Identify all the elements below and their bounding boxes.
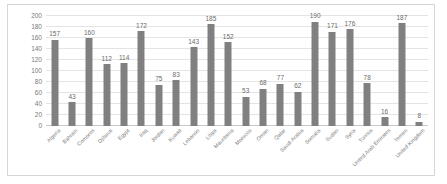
y-axis-tick-label: 20 [35, 112, 42, 119]
bar-slot: 43 [63, 16, 80, 126]
y-axis-tick-label: 120 [31, 57, 42, 64]
plot-area: 1574316011211417275831431851525368776219… [46, 16, 428, 126]
chart-container: 020406080100120140160180200 157431601121… [7, 4, 435, 176]
y-axis-tick-label: 200 [31, 13, 42, 20]
x-axis-category-label: Comoros [77, 128, 96, 147]
y-axis-tick-label: 80 [35, 79, 42, 86]
bar-slot: 176 [341, 16, 358, 126]
bar[interactable] [294, 92, 301, 126]
bar-value-label: 62 [294, 83, 301, 90]
x-axis-category-label: Qatar [274, 128, 287, 141]
x-axis-category-label: Oman [256, 128, 270, 142]
bar[interactable] [207, 24, 214, 126]
bar[interactable] [155, 85, 162, 126]
bar-slot: 16 [376, 16, 393, 126]
bar-slot: 157 [46, 16, 63, 126]
y-axis-tick-label: 0 [38, 123, 42, 130]
x-axis-category-label: Lebanon [182, 128, 201, 147]
x-axis-category-label: Djibouti [97, 128, 114, 145]
bar-value-label: 8 [417, 113, 421, 120]
bar-slot: 187 [393, 16, 410, 126]
bar-value-label: 83 [173, 72, 180, 79]
bar[interactable] [138, 31, 145, 126]
bar-slot: 143 [185, 16, 202, 126]
bar[interactable] [364, 83, 371, 126]
bar-slot: 78 [359, 16, 376, 126]
bar-value-label: 160 [84, 30, 95, 37]
bar-series: 1574316011211417275831431851525368776219… [46, 16, 428, 126]
bar[interactable] [346, 29, 353, 126]
x-axis-category-label: Morocco [234, 128, 252, 146]
x-axis-category-label: Jordan [150, 128, 165, 143]
bar-value-label: 78 [364, 75, 371, 82]
bar-slot: 8 [411, 16, 428, 126]
x-axis-category-label: Libya [205, 128, 218, 141]
bar-value-label: 75 [155, 76, 162, 83]
x-axis-category-label: Egypt [117, 128, 131, 142]
bar-value-label: 143 [188, 39, 199, 46]
bar-slot: 83 [168, 16, 185, 126]
bar[interactable] [242, 97, 249, 126]
bar-value-label: 176 [344, 21, 355, 28]
y-axis-tick-label: 160 [31, 35, 42, 42]
x-axis-category-label: Sudan [324, 128, 339, 143]
bar-value-label: 187 [397, 15, 408, 22]
bar-slot: 112 [98, 16, 115, 126]
bar[interactable] [277, 84, 284, 126]
bar[interactable] [190, 47, 197, 126]
y-axis-tick-label: 40 [35, 101, 42, 108]
bar[interactable] [121, 63, 128, 126]
x-axis-category-label: Iraq [138, 128, 148, 138]
bar-value-label: 171 [327, 23, 338, 30]
bar[interactable] [51, 40, 58, 126]
bar-value-label: 77 [277, 75, 284, 82]
bar-slot: 185 [202, 16, 219, 126]
bar-value-label: 185 [206, 16, 217, 23]
bar-slot: 68 [254, 16, 271, 126]
bar[interactable] [173, 80, 180, 126]
x-axis-category-label: Somalia [304, 128, 322, 146]
y-axis-tick-label: 180 [31, 24, 42, 31]
bar-slot: 114 [115, 16, 132, 126]
bar[interactable] [416, 122, 423, 126]
bar-slot: 62 [289, 16, 306, 126]
bar-value-label: 43 [68, 94, 75, 101]
bar-slot: 160 [81, 16, 98, 126]
bar-slot: 152 [220, 16, 237, 126]
bar[interactable] [69, 102, 76, 126]
x-axis-labels: AlgeriaBahrainComorosDjiboutiEgyptIraqJo… [46, 128, 428, 176]
bar[interactable] [225, 42, 232, 126]
bar-slot: 75 [150, 16, 167, 126]
bar[interactable] [260, 89, 267, 126]
bar[interactable] [381, 117, 388, 126]
bar[interactable] [103, 64, 110, 126]
x-axis-category-label: Algeria [46, 128, 62, 144]
bar[interactable] [329, 32, 336, 126]
bar-value-label: 157 [49, 31, 60, 38]
bar-value-label: 114 [119, 55, 129, 62]
bar-slot: 77 [272, 16, 289, 126]
x-axis-category-label: Syria [344, 128, 357, 141]
bar[interactable] [398, 23, 405, 126]
bar[interactable] [86, 38, 93, 126]
bar-value-label: 68 [259, 80, 266, 87]
y-axis-tick-label: 60 [35, 90, 42, 97]
y-axis-tick-label: 140 [31, 46, 42, 53]
bar-slot: 171 [324, 16, 341, 126]
y-axis: 020406080100120140160180200 [16, 16, 44, 126]
y-axis-tick-label: 100 [31, 68, 42, 75]
bar-value-label: 172 [136, 23, 147, 30]
bar-slot: 53 [237, 16, 254, 126]
bar-value-label: 53 [242, 88, 249, 95]
bar-slot: 190 [306, 16, 323, 126]
bar-value-label: 190 [310, 13, 321, 20]
bar-value-label: 112 [102, 56, 112, 63]
bar[interactable] [312, 22, 319, 127]
bar-slot: 172 [133, 16, 150, 126]
bar-value-label: 16 [381, 109, 388, 116]
bar-value-label: 152 [223, 34, 234, 41]
